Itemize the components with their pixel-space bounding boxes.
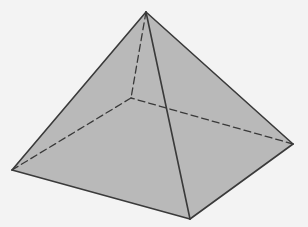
pyramid-svg (0, 0, 308, 227)
pyramid-diagram (0, 0, 308, 227)
